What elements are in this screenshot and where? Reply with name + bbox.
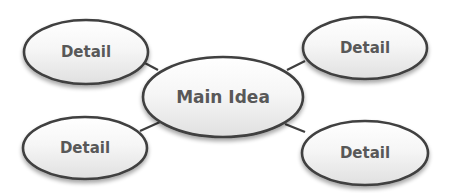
detail-node-bottom-left-label: Detail: [60, 139, 110, 157]
connector-bottom-left: [140, 122, 160, 131]
detail-node-top-left: Detail: [24, 20, 148, 84]
nodes: DetailDetailDetailDetailMain Idea: [23, 17, 428, 185]
connector-bottom-right: [285, 124, 305, 132]
main-idea-node: Main Idea: [143, 57, 303, 137]
detail-node-top-right-label: Detail: [340, 39, 390, 57]
detail-node-bottom-left: Detail: [23, 117, 147, 179]
detail-node-bottom-right: Detail: [302, 121, 428, 185]
detail-node-bottom-right-label: Detail: [340, 144, 390, 162]
detail-node-top-left-label: Detail: [61, 43, 111, 61]
main-idea-node-label: Main Idea: [176, 87, 270, 107]
connector-top-right: [287, 61, 305, 70]
detail-node-top-right: Detail: [303, 17, 427, 79]
mind-map-diagram: DetailDetailDetailDetailMain Idea: [0, 0, 450, 193]
